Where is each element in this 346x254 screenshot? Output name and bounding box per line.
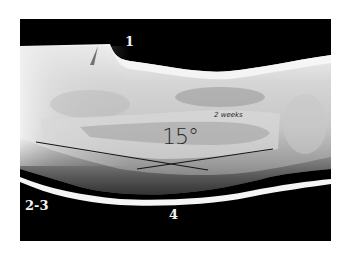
label-1: 1 (125, 35, 134, 48)
radiograph-image: 1 2-3 4 15° 2 weeks (20, 19, 331, 241)
time-annotation: 2 weeks (214, 112, 243, 119)
muscle-shadow (175, 87, 265, 107)
angle-annotation: 15° (162, 126, 198, 148)
label-2-3: 2-3 (25, 199, 49, 212)
muscle-shadow (50, 90, 130, 118)
label-4: 4 (169, 208, 178, 221)
joint-region (283, 94, 327, 154)
